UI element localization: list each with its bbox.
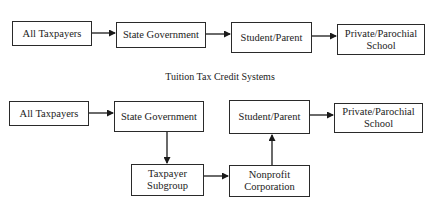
arrows-layer (0, 0, 434, 198)
